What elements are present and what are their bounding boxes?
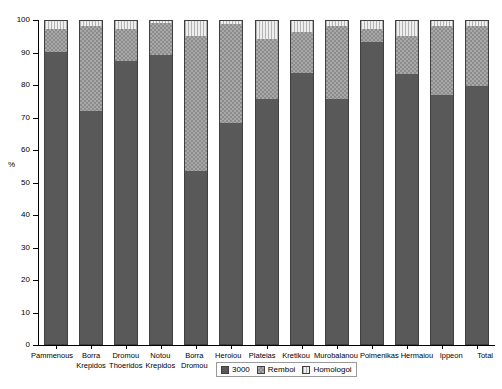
bar-segment-3000[interactable] [80,111,102,344]
bar-segment-3000[interactable] [396,74,418,344]
y-tick-label: 50 [4,179,30,187]
x-axis-label-line: Hermaiou [401,351,434,361]
y-tick-label: 0 [4,341,30,349]
x-axis-label-line: Krepidos [75,361,107,371]
bar-segment-homologoi[interactable] [291,21,313,32]
bar-slot [214,20,249,345]
stacked-bar[interactable] [465,20,489,345]
y-tick-label: 90 [4,49,30,57]
bar-segment-homologoi[interactable] [80,21,102,26]
bar-segment-homologoi[interactable] [115,21,137,29]
bar-segment-remboi[interactable] [396,36,418,75]
bar-slot [143,20,178,345]
bar-segment-homologoi[interactable] [150,21,172,23]
bar-segment-homologoi[interactable] [256,21,278,39]
bar-slot [284,20,319,345]
bar-segment-remboi[interactable] [45,29,67,52]
x-axis-label-line: Krepidos [144,361,176,371]
bar-segment-3000[interactable] [115,61,137,344]
bar-segment-remboi[interactable] [256,39,278,99]
legend-item[interactable]: Homologoi [302,365,351,374]
x-axis-ticks [38,345,495,349]
stacked-bar[interactable] [255,20,279,345]
bar-segment-homologoi[interactable] [361,21,383,29]
bar-segment-remboi[interactable] [431,26,453,95]
x-axis-label: NotouKrepidos [143,351,177,383]
y-tick-label: 70 [4,114,30,122]
bar-segment-3000[interactable] [291,73,313,344]
stacked-bar[interactable] [395,20,419,345]
x-tick-mark [56,345,57,349]
bar-segment-homologoi[interactable] [396,21,418,36]
stacked-bar[interactable] [149,20,173,345]
x-tick-slot [179,345,214,349]
bar-segment-remboi[interactable] [361,29,383,42]
bar-segment-remboi[interactable] [80,26,102,112]
x-tick-slot [390,345,425,349]
bar-segment-3000[interactable] [326,99,348,344]
bar-segment-homologoi[interactable] [326,21,348,26]
x-axis-label: DromouThoeridos [108,351,143,383]
bar-segment-remboi[interactable] [291,32,313,72]
bar-segment-homologoi[interactable] [185,21,207,36]
bar-segment-homologoi[interactable] [431,21,453,26]
stacked-bar[interactable] [44,20,68,345]
x-axis-label-line: Thoeridos [109,361,142,371]
x-axis-label-line: Borra [75,351,107,361]
bar-segment-3000[interactable] [220,123,242,344]
bar-segment-homologoi[interactable] [220,21,242,24]
x-axis-label-line: Dromou [178,361,210,371]
stacked-bar[interactable] [325,20,349,345]
bar-segment-3000[interactable] [431,95,453,344]
bar-segment-homologoi[interactable] [45,21,67,29]
bar-segment-remboi[interactable] [220,24,242,123]
legend-item[interactable]: Remboi [257,365,296,374]
bar-segment-3000[interactable] [466,86,488,344]
x-tick-slot [249,345,284,349]
stacked-bar[interactable] [114,20,138,345]
x-axis-label-line: Pammenous [31,351,73,361]
stacked-bar[interactable] [290,20,314,345]
stacked-bar[interactable] [79,20,103,345]
x-tick-mark [196,345,197,349]
bar-segment-remboi[interactable] [150,23,172,55]
x-axis-label-line: Kretikou [280,351,312,361]
bar-segment-3000[interactable] [45,52,67,344]
bar-segment-3000[interactable] [185,171,207,344]
y-tick-label: 80 [4,81,30,89]
bar-slot [390,20,425,345]
bar-segment-3000[interactable] [256,99,278,344]
legend-label: Remboi [268,365,296,374]
x-axis-label-line: Total [469,351,501,361]
x-axis-label: BorraKrepidos [74,351,108,383]
stacked-bar[interactable] [184,20,208,345]
bar-segment-3000[interactable] [150,55,172,344]
stacked-bar[interactable] [430,20,454,345]
y-tick-label: 20 [4,276,30,284]
bar-slot [425,20,460,345]
x-tick-slot [460,345,495,349]
bar-slot [179,20,214,345]
bar-slot [38,20,73,345]
solid-dark-swatch [221,366,229,374]
x-tick-slot [284,345,319,349]
bar-segment-3000[interactable] [361,42,383,344]
bar-segment-homologoi[interactable] [466,21,488,26]
x-tick-slot [108,345,143,349]
x-tick-mark [477,345,478,349]
x-axis-label-line: Dromou [109,351,142,361]
bar-segment-remboi[interactable] [326,26,348,99]
bar-segment-remboi[interactable] [115,29,137,61]
checkered-gray-swatch [257,366,265,374]
stacked-bar[interactable] [360,20,384,345]
y-tick-label: 30 [4,244,30,252]
bar-segment-remboi[interactable] [466,26,488,86]
stacked-bar[interactable] [219,20,243,345]
x-tick-mark [302,345,303,349]
legend-item[interactable]: 3000 [221,365,250,374]
bar-group [38,20,495,345]
x-tick-slot [38,345,73,349]
bar-segment-remboi[interactable] [185,36,207,172]
legend-label: Homologoi [313,365,351,374]
x-tick-slot [319,345,354,349]
